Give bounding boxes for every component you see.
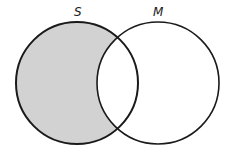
set-m-label: M [153,5,164,19]
set-s-label: S [74,5,82,19]
venn-diagram: S M [0,0,231,152]
